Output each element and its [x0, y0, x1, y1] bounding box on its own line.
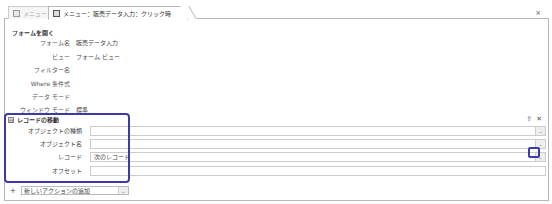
- chevron-down-icon[interactable]: ⌄: [535, 127, 545, 135]
- object-type-label: オブジェクトの種類: [8, 126, 90, 135]
- object-name-row: オブジェクト名 ⌄: [8, 138, 546, 149]
- object-name-label: オブジェクト名: [8, 139, 90, 148]
- window-mode-row: ウィンドウ モード 標準: [10, 104, 88, 114]
- filter-name-label: フィルター名: [10, 65, 76, 74]
- data-mode-label: データ モード: [10, 92, 76, 101]
- object-name-select[interactable]: ⌄: [90, 139, 546, 149]
- chevron-down-icon[interactable]: ⌄: [535, 153, 545, 161]
- data-mode-row: データ モード: [10, 91, 76, 101]
- collapse-icon[interactable]: ⊟: [8, 117, 14, 123]
- macro-icon: [13, 10, 20, 17]
- macro-icon: [53, 10, 60, 17]
- open-form-action-title: フォームを開く: [12, 28, 54, 37]
- move-up-icon[interactable]: ⇧: [526, 115, 532, 123]
- document-tab-bar: メニュー メニュー：販売データ入力：クリック時 ×: [4, 4, 549, 19]
- close-icon[interactable]: ×: [535, 9, 541, 17]
- goto-record-action-block: ⊟ レコードの移動 ⇧ ✕ オブジェクトの種類 ⌄ オブジェクト名 ⌄ レコード…: [8, 115, 546, 181]
- tab-label: メニュー: [23, 9, 47, 18]
- record-select[interactable]: 次のレコード ⌄: [90, 152, 546, 162]
- view-value[interactable]: フォーム ビュー: [76, 52, 120, 61]
- window-mode-value[interactable]: 標準: [76, 105, 88, 114]
- add-new-action-select[interactable]: 新しいアクションの追加 ⌄: [21, 186, 129, 195]
- add-new-action-label: 新しいアクションの追加: [24, 186, 90, 195]
- chevron-down-icon[interactable]: ⌄: [118, 187, 128, 194]
- offset-label: オフセット: [8, 166, 90, 175]
- view-label: ビュー: [10, 52, 76, 61]
- object-type-row: オブジェクトの種類 ⌄: [8, 125, 546, 136]
- record-label: レコード: [8, 152, 90, 161]
- object-type-select[interactable]: ⌄: [90, 126, 546, 136]
- form-name-label: フォーム名: [10, 38, 76, 47]
- record-row: レコード 次のレコード ⌄: [8, 151, 546, 162]
- goto-record-header: ⊟ レコードの移動: [8, 115, 59, 124]
- delete-icon[interactable]: ✕: [536, 115, 542, 123]
- where-condition-row: Where 条件式: [10, 78, 76, 88]
- add-new-action-row: + 新しいアクションの追加 ⌄: [10, 186, 129, 195]
- view-row: ビュー フォーム ビュー: [10, 51, 120, 61]
- chevron-down-icon[interactable]: ⌄: [535, 140, 545, 148]
- record-value: 次のレコード: [94, 152, 130, 161]
- where-condition-label: Where 条件式: [10, 79, 76, 88]
- action-controls: ⇧ ✕: [526, 115, 542, 123]
- tab-label: メニュー：販売データ入力：クリック時: [63, 9, 171, 18]
- plus-icon: +: [10, 187, 16, 195]
- goto-record-title: レコードの移動: [17, 115, 59, 124]
- offset-row: オフセット: [8, 165, 546, 176]
- filter-name-row: フィルター名: [10, 64, 76, 74]
- window-mode-label: ウィンドウ モード: [10, 105, 76, 114]
- form-name-row: フォーム名 販売データ入力: [10, 37, 118, 47]
- offset-input[interactable]: [90, 166, 546, 176]
- form-name-value[interactable]: 販売データ入力: [76, 38, 118, 47]
- tab-menu-sales-click[interactable]: メニュー：販売データ入力：クリック時: [48, 6, 188, 20]
